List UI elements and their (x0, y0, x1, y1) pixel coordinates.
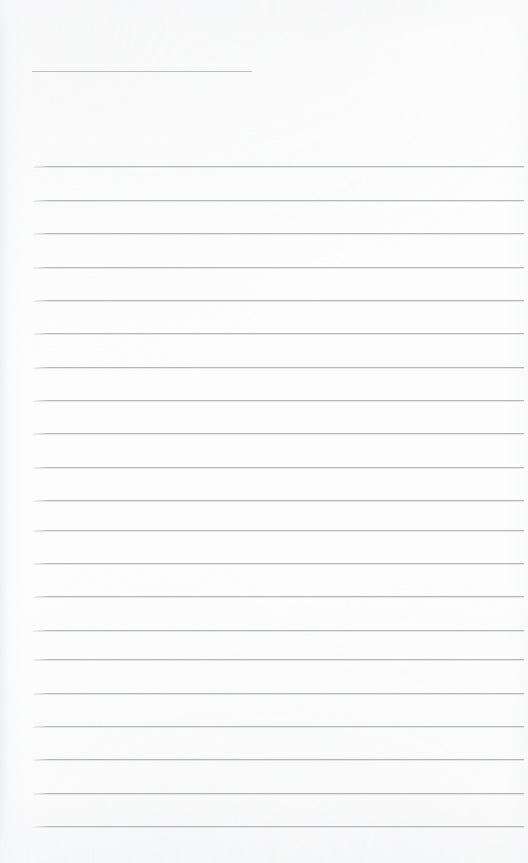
ruled-line[interactable] (33, 166, 524, 167)
ruled-line-left-fade (33, 693, 49, 696)
ruled-line-left-fade (33, 596, 49, 599)
ruled-line[interactable] (33, 367, 524, 368)
ruled-line-left-fade (33, 267, 49, 270)
ruled-line[interactable] (33, 233, 524, 234)
ruled-line[interactable] (33, 530, 524, 531)
ruled-line-left-fade (33, 659, 49, 662)
ruled-line[interactable] (33, 759, 524, 760)
ruled-line-left-fade (33, 530, 49, 533)
ruled-line-left-fade (33, 826, 49, 829)
ruled-line-left-fade (33, 400, 49, 403)
ruled-line[interactable] (33, 630, 524, 631)
ruled-line[interactable] (33, 200, 524, 201)
ruled-line-left-fade (33, 726, 49, 729)
ruled-line[interactable] (33, 333, 524, 334)
ruled-line[interactable] (33, 659, 524, 660)
ruled-line-left-fade (33, 630, 49, 633)
ruled-line[interactable] (33, 693, 524, 694)
ruled-line-left-fade (33, 433, 49, 436)
ruled-line[interactable] (33, 300, 524, 301)
ruled-line-left-fade (33, 793, 49, 796)
ruled-line[interactable] (33, 433, 524, 434)
scan-paper-texture (0, 0, 528, 863)
ruled-line-left-fade (33, 759, 49, 762)
ruled-line[interactable] (33, 596, 524, 597)
name-date-blank-rule (32, 71, 252, 72)
ruled-line-left-fade (33, 367, 49, 370)
ruled-line[interactable] (33, 467, 524, 468)
ruled-line-left-fade (33, 200, 49, 203)
ruled-line-left-fade (33, 500, 49, 503)
ruled-line-left-fade (33, 563, 49, 566)
ruled-line-left-fade (33, 166, 49, 169)
ruled-line-left-fade (33, 467, 49, 470)
ruled-line[interactable] (33, 500, 524, 501)
ruled-line-left-fade (33, 300, 49, 303)
ruled-line[interactable] (33, 826, 524, 827)
ruled-line[interactable] (33, 267, 524, 268)
ruled-line[interactable] (33, 726, 524, 727)
ruled-line[interactable] (33, 400, 524, 401)
ruled-line-left-fade (33, 233, 49, 236)
paper-page (0, 0, 528, 863)
scan-top-shading (0, 0, 528, 863)
scan-edge-shading (0, 0, 528, 863)
ruled-line-left-fade (33, 333, 49, 336)
ruled-line[interactable] (33, 563, 524, 564)
ruled-line[interactable] (33, 793, 524, 794)
